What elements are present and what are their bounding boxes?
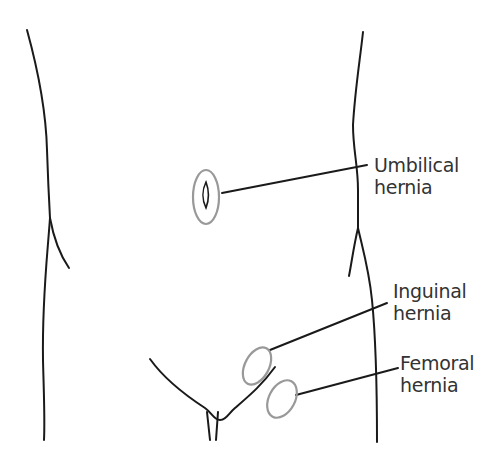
umbilical-leader-line bbox=[222, 165, 367, 193]
femoral-label-line2: hernia bbox=[400, 374, 474, 396]
navel-mark bbox=[203, 182, 208, 208]
groin-gap-right bbox=[216, 412, 218, 440]
umbilical-label-line2: hernia bbox=[374, 176, 459, 198]
right-hip-crease bbox=[349, 228, 358, 276]
umbilical-hernia-ring bbox=[193, 170, 219, 224]
umbilical-label-line1: Umbilical bbox=[374, 154, 459, 176]
inguinal-label-line2: hernia bbox=[393, 302, 467, 324]
left-torso-contour bbox=[27, 30, 50, 440]
left-hip-crease bbox=[50, 218, 69, 268]
torso-illustration bbox=[0, 0, 503, 468]
inguinal-leader-line bbox=[270, 303, 387, 350]
groin-curve-left bbox=[150, 359, 275, 420]
hernia-diagram: Umbilical hernia Inguinal hernia Femoral… bbox=[0, 0, 503, 468]
femoral-label-line1: Femoral bbox=[400, 352, 474, 374]
femoral-hernia-ring bbox=[261, 375, 303, 423]
inguinal-label-line1: Inguinal bbox=[393, 280, 467, 302]
umbilical-hernia-label: Umbilical hernia bbox=[374, 154, 459, 198]
groin-gap-left bbox=[207, 412, 210, 440]
femoral-leader-line bbox=[296, 368, 398, 395]
femoral-hernia-label: Femoral hernia bbox=[400, 352, 474, 396]
inguinal-hernia-label: Inguinal hernia bbox=[393, 280, 467, 324]
